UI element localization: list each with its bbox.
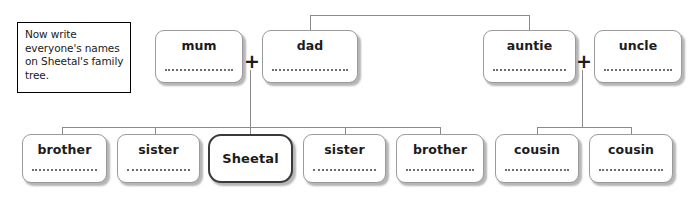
person-role-label: auntie	[484, 38, 575, 53]
connector-cousins-bar	[537, 127, 632, 128]
person-role-label: uncle	[595, 38, 681, 53]
couple-plus-symbol-left: +	[244, 52, 260, 71]
person-card-brother-1[interactable]: brother	[22, 134, 107, 183]
person-card-cousin-2[interactable]: cousin	[589, 134, 673, 183]
couple-plus-symbol-right: +	[576, 52, 592, 71]
name-writing-line[interactable]	[165, 67, 233, 71]
connector-auntie-up	[529, 15, 530, 31]
person-card-sheetal[interactable]: Sheetal	[208, 134, 293, 183]
person-role-label: brother	[23, 142, 106, 157]
name-writing-line[interactable]	[604, 67, 672, 71]
name-writing-line[interactable]	[406, 167, 474, 171]
connector-parents-right-down	[582, 70, 583, 128]
name-writing-line[interactable]	[599, 167, 663, 171]
family-tree-worksheet: Now write everyone's names on Sheetal's …	[0, 0, 696, 202]
connector-parents-left-down	[250, 70, 251, 128]
person-role-label: cousin	[496, 142, 578, 157]
name-writing-line[interactable]	[505, 167, 569, 171]
connector-dad-up	[310, 15, 311, 31]
person-name-label: Sheetal	[210, 136, 291, 181]
person-card-sister-2[interactable]: sister	[303, 134, 386, 183]
person-role-label: sister	[118, 142, 199, 157]
person-card-brother-2[interactable]: brother	[396, 134, 484, 183]
name-writing-line[interactable]	[127, 167, 190, 171]
person-role-label: cousin	[590, 142, 672, 157]
person-card-cousin-1[interactable]: cousin	[495, 134, 579, 183]
connector-siblings-top-bar	[310, 15, 530, 16]
person-card-auntie[interactable]: auntie	[483, 30, 576, 83]
instruction-text: Now write everyone's names on Sheetal's …	[25, 28, 130, 82]
person-card-uncle[interactable]: uncle	[594, 30, 682, 83]
name-writing-line[interactable]	[272, 67, 348, 71]
person-card-mum[interactable]: mum	[155, 30, 243, 83]
name-writing-line[interactable]	[493, 67, 566, 71]
instruction-box: Now write everyone's names on Sheetal's …	[17, 22, 131, 93]
person-card-dad[interactable]: dad	[262, 30, 358, 83]
person-role-label: sister	[304, 142, 385, 157]
name-writing-line[interactable]	[313, 167, 376, 171]
person-role-label: dad	[263, 38, 357, 53]
person-role-label: mum	[156, 38, 242, 53]
connector-children-left-bar	[62, 127, 441, 128]
name-writing-line[interactable]	[32, 167, 97, 171]
person-role-label: brother	[397, 142, 483, 157]
person-card-sister-1[interactable]: sister	[117, 134, 200, 183]
